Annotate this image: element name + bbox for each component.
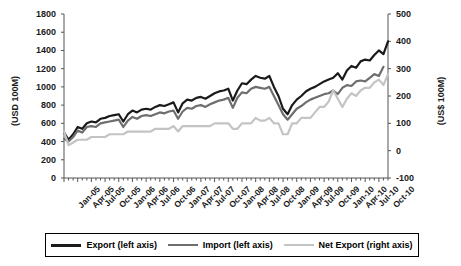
y-tick-left-400: 400 — [18, 136, 56, 148]
y-tick-right-400: 400 — [396, 35, 430, 47]
y-tick-left-800: 800 — [18, 99, 56, 111]
y-tick-right-100: 100 — [396, 117, 430, 129]
y-tick-left-1800: 1800 — [18, 8, 56, 20]
legend-swatch-1 — [168, 244, 198, 246]
y-tick-right-500: 500 — [396, 8, 430, 20]
series-line-1 — [64, 67, 383, 142]
chart-legend: Export (left axis)Import (left axis)Net … — [45, 233, 419, 257]
y-tick-left-600: 600 — [18, 117, 56, 129]
y-tick-left-1400: 1400 — [18, 44, 56, 56]
y-tick-right-300: 300 — [396, 63, 430, 75]
legend-item-2: Net Export (right axis) — [284, 240, 413, 250]
legend-swatch-2 — [284, 244, 314, 246]
y-tick-left-200: 200 — [18, 154, 56, 166]
legend-item-0: Export (left axis) — [51, 240, 157, 250]
y-axis-left-ticks: 180016001400120010008006004002000 — [18, 0, 56, 190]
legend-label-1: Import (left axis) — [203, 240, 273, 250]
x-axis-ticks: Jan-05Apr-05Jul-05Oct-05Jan-06Apr-06Jul-… — [0, 182, 461, 234]
legend-label-2: Net Export (right axis) — [319, 240, 413, 250]
y-tick-left-1200: 1200 — [18, 63, 56, 75]
y-tick-left-1000: 1000 — [18, 81, 56, 93]
y-tick-left-1600: 1600 — [18, 26, 56, 38]
legend-item-1: Import (left axis) — [168, 240, 273, 250]
legend-swatch-0 — [51, 244, 81, 247]
y-axis-right-title: (US$ 100M) — [436, 60, 446, 142]
legend-label-0: Export (left axis) — [86, 240, 157, 250]
y-tick-right-200: 200 — [396, 90, 430, 102]
series-line-2 — [64, 74, 388, 145]
chart-container: (USD 100M) (US$ 100M) 180016001400120010… — [0, 0, 461, 266]
y-tick-right-0: 0 — [396, 145, 430, 157]
y-axis-right-ticks: 5004003002001000-100 — [396, 0, 430, 190]
